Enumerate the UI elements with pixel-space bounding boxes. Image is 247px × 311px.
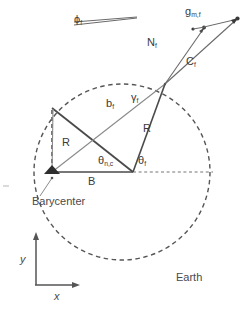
label-N-f: Nf — [147, 37, 157, 48]
label-b-f: bf — [106, 98, 114, 109]
node-circle-junction — [164, 83, 166, 85]
barycenter-leader-line — [40, 178, 52, 196]
label-C-f: Cf — [186, 56, 196, 67]
label-earth: Earth — [176, 272, 202, 283]
label-theta-f: θf — [138, 155, 146, 166]
label-B: B — [88, 176, 95, 187]
barycenter-marker — [44, 165, 60, 174]
orbital-geometry-figure: ϕf gm,f Nf Cf bf γf R R θn,c θf B Baryce… — [0, 0, 247, 311]
label-phi-f: ϕf — [74, 14, 82, 25]
label-barycenter: Barycenter — [32, 196, 85, 207]
label-R-left: R — [62, 137, 70, 148]
barycenter-leader-dot — [51, 177, 54, 180]
segment-N-f — [165, 28, 204, 84]
label-theta-nc: θn,c — [98, 155, 113, 166]
label-axis-x: x — [54, 291, 60, 302]
segment-C-f — [165, 19, 237, 84]
label-gamma-f: γf — [131, 92, 138, 103]
label-axis-y: y — [20, 254, 26, 265]
label-g-mf: gm,f — [185, 6, 201, 17]
label-R-right: R — [143, 123, 151, 134]
diagram-canvas — [0, 0, 247, 311]
y-axis-arrowhead — [33, 232, 39, 240]
x-axis-arrowhead — [72, 282, 80, 288]
node-C-f-tip — [235, 16, 239, 20]
